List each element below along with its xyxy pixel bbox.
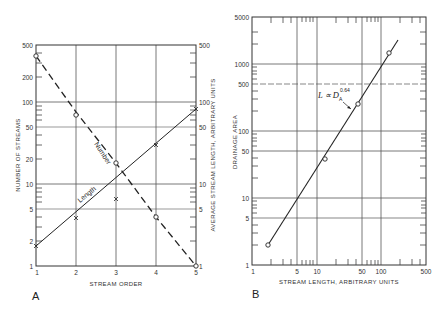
x-tick-labels: 1 5 10 50 100 500 [251,268,432,275]
data-point [356,102,360,106]
data-point [387,51,391,55]
x-axis-title: STREAM LENGTH, ARBITRARY UNITS [279,279,399,285]
x-tick-label: 100 [376,268,387,275]
data-point [194,264,198,268]
panel-letter-b: B [252,288,259,300]
right-y-tick-labels: 500 100 50 10 5 1 [199,42,210,270]
x-tick-label: 5 [194,269,198,276]
y-tick-label: 10 [199,181,207,188]
y-tick-label: 50 [26,124,34,131]
y-tick-label: 5000 [235,14,250,21]
y-tick-label: 50 [199,124,207,131]
y-tick-label: 500 [238,81,249,88]
x-tick-labels: 1 2 3 4 5 [35,269,198,276]
data-point [74,113,78,117]
y-tick-label: 500 [22,42,33,49]
right-minor-ticks [190,53,196,241]
number-series-label: Number [93,141,113,166]
annotation-subscript: A [339,96,343,102]
regression-line [268,40,398,245]
top-minor-ticks [271,17,420,23]
figure: 500 200 100 50 20 10 5 2 1 500 100 50 10… [0,0,446,315]
panel-b: 5000 1000 500 100 50 10 5 1 1 5 10 50 10… [232,14,432,300]
y-tick-label: 5 [199,206,203,213]
y-tick-label: 20 [26,156,34,163]
y-tick-label: 100 [22,99,33,106]
x-tick-label: 3 [114,269,118,276]
y-tick-label: 10 [242,195,250,202]
y-tick-label: 1 [29,263,33,270]
left-minor-ticks [36,53,42,241]
x-tick-label: 2 [74,269,78,276]
x-tick-label: 50 [358,268,366,275]
x-tick-label: 5 [295,268,299,275]
y-tick-label: 1 [199,263,203,270]
y-axis-title-right: AVERAGE STREAM LENGTH, ARBITRARY UNITS [210,78,216,231]
data-point [266,243,270,247]
y-tick-label: 100 [238,128,249,135]
x-axis-title: STREAM ORDER [89,281,142,287]
data-point [114,161,118,165]
x-tick-label: 500 [421,268,432,275]
left-y-tick-labels: 500 200 100 50 20 10 5 2 1 [22,42,33,270]
y-tick-label: 1 [245,262,249,269]
power-law-annotation: L ∝ D A 0.64 [317,87,351,109]
y-tick-label: 200 [22,74,33,81]
x-tick-label: 1 [251,268,255,275]
annotation-superscript: 0.64 [340,87,350,93]
x-tick-label: 4 [154,269,158,276]
y-tick-label: 10 [26,181,34,188]
y-tick-label: 2 [29,238,33,245]
y-tick-label: 100 [199,99,210,106]
x-tick-label: 1 [35,269,39,276]
y-tick-label: 1000 [235,61,250,68]
panel-a: 500 200 100 50 20 10 5 2 1 500 100 50 10… [15,42,216,302]
data-point [34,54,38,58]
y-tick-label: 5 [245,215,249,222]
y-axis-title: DRAINAGE AREA [232,115,238,169]
data-point [154,215,158,219]
y-tick-label: 50 [242,148,250,155]
panel-letter-a: A [32,290,40,302]
y-tick-label: 5 [29,206,33,213]
x-tick-label: 10 [313,268,321,275]
plot-frame [252,17,426,265]
bottom-minor-ticks [271,259,420,265]
y-axis-title-left: NUMBER OF STREAMS [15,118,21,191]
data-point [323,157,327,161]
annotation-text: L ∝ D [317,90,340,100]
y-tick-label: 500 [199,42,210,49]
